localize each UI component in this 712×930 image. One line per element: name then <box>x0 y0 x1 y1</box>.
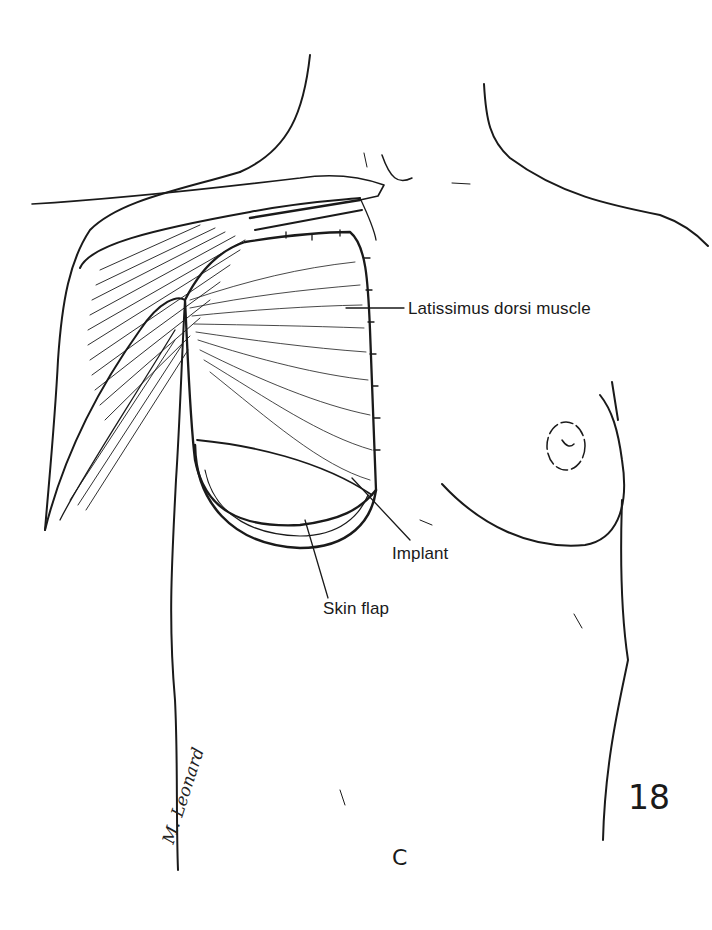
torso-drawing <box>0 0 712 930</box>
skin-flap-outline <box>195 445 376 548</box>
arm-outline <box>45 298 185 530</box>
torso-right-outline <box>603 382 628 840</box>
panel-letter: C <box>392 845 407 870</box>
implant-outline <box>197 440 372 495</box>
label-skin-flap: Skin flap <box>323 599 389 619</box>
neck-left-outline <box>240 55 310 172</box>
breast-outline <box>442 395 624 546</box>
nipple-areola <box>547 422 585 470</box>
label-latissimus-dorsi-muscle: Latissimus dorsi muscle <box>408 299 591 319</box>
shoulder-outline <box>45 172 240 530</box>
leader-skin-flap <box>305 520 328 598</box>
figure-number: 18 <box>628 778 670 817</box>
neck-right-outline <box>484 84 708 246</box>
label-implant: Implant <box>392 544 448 564</box>
